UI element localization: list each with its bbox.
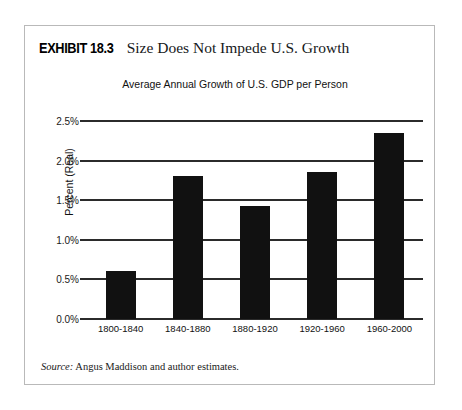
- x-axis-tick-label: 1960-2000: [354, 323, 424, 334]
- y-axis-tick-mark: [80, 318, 87, 320]
- bar-series: [87, 121, 423, 319]
- exhibit-heading: EXHIBIT 18.3Size Does Not Impede U.S. Gr…: [39, 36, 423, 60]
- exhibit-page: EXHIBIT 18.3Size Does Not Impede U.S. Gr…: [0, 0, 462, 410]
- exhibit-title: Size Does Not Impede U.S. Growth: [127, 39, 350, 56]
- chart-title: Average Annual Growth of U.S. GDP per Pe…: [85, 78, 385, 90]
- x-axis-category-labels: 1800-18401840-18801880-19201920-19601960…: [87, 323, 423, 339]
- y-axis-tick-mark: [80, 239, 87, 241]
- source-text: Angus Maddison and author estimates.: [75, 361, 239, 372]
- source-note: Source: Angus Maddison and author estima…: [41, 361, 239, 372]
- plot-area: [87, 121, 423, 319]
- x-axis-tick-label: 1800-1840: [86, 323, 156, 334]
- x-axis-tick-label: 1920-1960: [287, 323, 357, 334]
- bar: [173, 176, 203, 319]
- bar: [374, 133, 404, 319]
- bar: [307, 172, 337, 319]
- bar: [106, 271, 136, 319]
- exhibit-number-label: EXHIBIT 18.3: [39, 36, 113, 60]
- x-axis-tick-label: 1880-1920: [220, 323, 290, 334]
- y-axis-tick-mark: [80, 278, 87, 280]
- y-axis-tick-marks: [25, 121, 87, 319]
- bar: [240, 206, 270, 319]
- y-axis-tick-mark: [80, 120, 87, 122]
- source-label: Source:: [41, 361, 73, 372]
- y-axis-tick-mark: [80, 199, 87, 201]
- x-axis-tick-label: 1840-1880: [153, 323, 223, 334]
- exhibit-frame: EXHIBIT 18.3Size Does Not Impede U.S. Gr…: [24, 25, 435, 385]
- y-axis-tick-mark: [80, 160, 87, 162]
